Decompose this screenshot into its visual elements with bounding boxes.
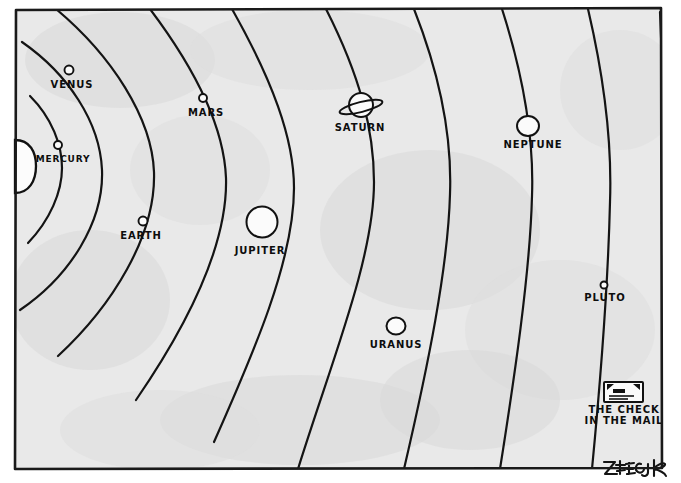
mars-label: MARS	[188, 107, 224, 118]
jupiter-body	[247, 207, 278, 238]
neptune-label: NEPTUNE	[504, 139, 563, 150]
envelope-stamp-icon	[613, 389, 625, 393]
neptune-body	[517, 116, 539, 136]
mercury-body	[54, 141, 62, 149]
pluto-body	[601, 282, 608, 289]
earth-label: EARTH	[120, 230, 162, 241]
uranus-label: URANUS	[370, 339, 423, 350]
mars-body	[199, 94, 207, 102]
caption-line-2: IN THE MAIL	[585, 415, 664, 426]
earth-body	[139, 217, 148, 226]
pluto-label: PLUTO	[584, 292, 625, 303]
saturn-label: SATURN	[335, 122, 386, 133]
jupiter-label: JUPITER	[234, 245, 286, 256]
caption-line-1: THE CHECK	[588, 404, 660, 415]
venus-body	[65, 66, 74, 75]
solar-system-illustration: MERCURY VENUS EARTH MARS JUPITER	[0, 0, 681, 483]
cartoon-canvas: MERCURY VENUS EARTH MARS JUPITER	[0, 0, 681, 483]
uranus-body	[387, 318, 406, 335]
venus-label: VENUS	[51, 79, 94, 90]
mercury-label: MERCURY	[36, 154, 91, 164]
